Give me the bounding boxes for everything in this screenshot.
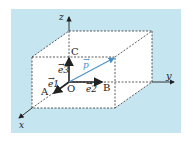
x-axis	[19, 108, 32, 118]
box-diagram	[0, 0, 186, 141]
z-axis-label: z	[59, 13, 64, 22]
e2-label: →e2	[86, 85, 97, 94]
point-o-label: O	[67, 84, 75, 94]
e1-label: →e1	[48, 80, 59, 89]
e3-label: →e3	[58, 66, 69, 75]
point-b-label: B	[103, 83, 110, 93]
x-axis-label: x	[19, 121, 24, 130]
point-c-label: C	[71, 47, 79, 57]
p-label: →p	[83, 61, 89, 70]
y-axis-label: y	[166, 71, 172, 81]
